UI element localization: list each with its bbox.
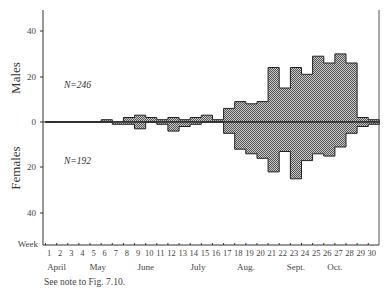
week-label: 7 — [114, 248, 118, 258]
month-label: May — [90, 262, 107, 272]
week-label: 19 — [245, 248, 254, 258]
month-label: July — [190, 262, 206, 272]
month-label: Oct. — [327, 262, 342, 272]
tick-label-40-males: 40 — [27, 26, 37, 36]
week-label: 30 — [368, 248, 377, 258]
week-label: 14 — [190, 248, 199, 258]
week-label: 2 — [58, 248, 62, 258]
week-label: 13 — [178, 248, 187, 258]
week-label: 9 — [136, 248, 140, 258]
week-label: 17 — [223, 248, 232, 258]
histogram-bars — [46, 54, 380, 179]
tick-label-0: 0 — [32, 117, 37, 127]
week-label: 3 — [69, 248, 73, 258]
male-bars — [46, 54, 380, 122]
week-label: 23 — [290, 248, 299, 258]
y-label-females: Females — [8, 146, 23, 189]
week-label: 4 — [80, 248, 85, 258]
week-label: 16 — [212, 248, 221, 258]
week-label: 25 — [312, 248, 321, 258]
month-labels: AprilMayJuneJulyAug.Sept.Oct. — [47, 262, 342, 272]
month-label: Sept. — [287, 262, 305, 272]
female-bars — [46, 122, 380, 179]
week-label: 27 — [334, 248, 343, 258]
week-label: 8 — [125, 248, 129, 258]
week-label: 29 — [356, 248, 365, 258]
n-males-annotation: N=246 — [63, 80, 91, 90]
y-label-males: Males — [8, 62, 23, 94]
tick-label-40-females: 40 — [27, 208, 37, 218]
week-label: 24 — [301, 248, 310, 258]
x-label-week: Week — [18, 239, 39, 249]
week-label: 6 — [103, 248, 107, 258]
week-label: 15 — [201, 248, 210, 258]
week-label: 26 — [323, 248, 332, 258]
week-label: 20 — [256, 248, 265, 258]
week-label: 12 — [167, 248, 176, 258]
month-label: Aug. — [237, 262, 255, 272]
week-label: 1 — [47, 248, 51, 258]
figure-note: See note to Fig. 7.10. — [44, 277, 125, 287]
tick-label-20-females: 20 — [27, 162, 37, 172]
n-females-annotation: N=192 — [63, 156, 91, 166]
week-label: 5 — [91, 248, 95, 258]
tick-label-20-males: 20 — [27, 72, 37, 82]
histogram-chart: 40 20 0 20 40 Males Females N=246 N=192 … — [0, 0, 387, 297]
month-label: April — [47, 262, 66, 272]
month-label: June — [137, 262, 154, 272]
week-label: 18 — [234, 248, 243, 258]
week-label: 21 — [267, 248, 276, 258]
week-label: 10 — [145, 248, 154, 258]
week-label: 22 — [279, 248, 288, 258]
week-label: 11 — [156, 248, 164, 258]
week-label: 28 — [345, 248, 354, 258]
